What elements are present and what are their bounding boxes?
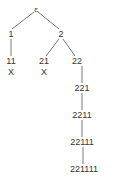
node-221111: 221111: [70, 165, 98, 174]
node-11-terminal-x: X: [8, 68, 14, 77]
tree-edges: [0, 0, 114, 181]
node-221: 221: [74, 84, 89, 93]
edge-2-21: [46, 39, 59, 56]
node-1: 1: [8, 30, 13, 39]
node-root: ε: [34, 5, 38, 14]
edge-2-22: [63, 39, 75, 56]
node-22111: 22111: [70, 138, 94, 147]
node-11: 11: [6, 57, 15, 66]
node-2211: 2211: [72, 111, 91, 120]
node-21-terminal-x: X: [41, 68, 47, 77]
node-22: 22: [72, 57, 82, 66]
edge-root-2: [38, 12, 59, 29]
node-21: 21: [39, 57, 49, 66]
edge-root-1: [12, 12, 34, 29]
node-2: 2: [58, 30, 63, 39]
